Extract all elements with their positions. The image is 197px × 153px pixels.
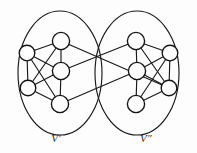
node-R1[interactable]: [127, 32, 144, 49]
node-L5[interactable]: [51, 95, 68, 112]
graph-svg: V′ V″: [0, 0, 197, 153]
node-R3[interactable]: [128, 62, 145, 79]
cross-edges-group: [60, 41, 169, 104]
node-L3[interactable]: [52, 62, 69, 79]
node-L2[interactable]: [19, 45, 35, 61]
node-R2[interactable]: [162, 45, 178, 61]
right-cluster-nodes: [127, 32, 177, 112]
cluster-label-left: V′: [51, 132, 61, 144]
left-cluster-nodes: [19, 32, 69, 112]
cluster-outlines: [18, 11, 179, 135]
node-R5[interactable]: [127, 95, 144, 112]
node-L1[interactable]: [52, 32, 69, 49]
cluster-label-right: V″: [140, 132, 152, 144]
node-L4[interactable]: [20, 80, 36, 96]
figure-canvas: V′ V″: [0, 0, 197, 153]
node-R4[interactable]: [161, 80, 177, 96]
